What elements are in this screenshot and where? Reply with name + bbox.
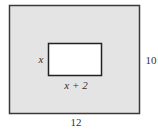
rectangle-diagram: x x + 2 10 12 <box>0 0 158 133</box>
outer-width-label: 12 <box>71 116 82 128</box>
inner-height-label: x <box>38 53 44 65</box>
inner-width-label: x + 2 <box>63 79 88 91</box>
outer-height-label: 10 <box>146 54 158 66</box>
inner-rectangle <box>49 44 102 76</box>
